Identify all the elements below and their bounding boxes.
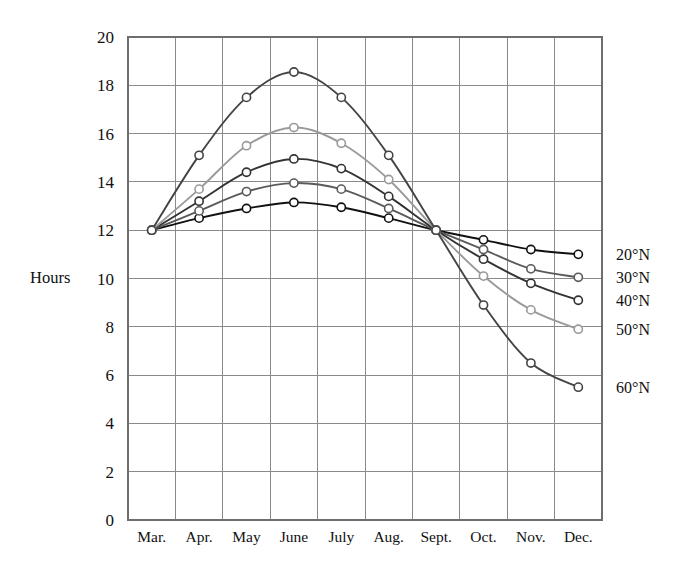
y-tick-label: 10 xyxy=(97,270,114,289)
data-point xyxy=(337,165,345,173)
data-point xyxy=(574,250,582,258)
data-point xyxy=(242,93,250,101)
data-point xyxy=(574,273,582,281)
y-tick-label: 14 xyxy=(97,173,115,192)
y-tick-label: 12 xyxy=(97,221,114,240)
y-tick-label: 20 xyxy=(97,28,114,47)
y-tick-label: 18 xyxy=(97,76,114,95)
y-axis-title: Hours xyxy=(30,268,70,287)
data-point xyxy=(242,204,250,212)
data-point xyxy=(432,226,440,234)
data-point xyxy=(290,123,298,131)
x-tick-label: Apr. xyxy=(186,528,213,545)
data-point xyxy=(527,265,535,273)
y-tick-label: 2 xyxy=(106,463,115,482)
data-point xyxy=(290,155,298,163)
y-axis-ticks: 02468101214161820 xyxy=(97,28,115,530)
data-point xyxy=(337,203,345,211)
data-point xyxy=(479,255,487,263)
data-point xyxy=(385,204,393,212)
data-point xyxy=(337,185,345,193)
data-point xyxy=(385,214,393,222)
data-point xyxy=(574,383,582,391)
x-tick-label: Sept. xyxy=(420,528,451,545)
x-tick-label: Dec. xyxy=(564,528,593,545)
data-point xyxy=(195,151,203,159)
x-tick-label: Oct. xyxy=(470,528,496,545)
y-tick-label: 4 xyxy=(106,414,115,433)
data-point xyxy=(527,359,535,367)
x-tick-label: Mar. xyxy=(137,528,166,545)
data-point xyxy=(527,279,535,287)
x-tick-label: Nov. xyxy=(516,528,546,545)
line-chart: 02468101214161820 Mar.Apr.MayJuneJulyAug… xyxy=(0,0,687,561)
data-point xyxy=(527,245,535,253)
data-point xyxy=(290,179,298,187)
data-point xyxy=(385,192,393,200)
data-point xyxy=(195,185,203,193)
y-tick-label: 0 xyxy=(106,511,115,530)
data-point xyxy=(479,272,487,280)
y-tick-label: 16 xyxy=(97,125,114,144)
data-point xyxy=(385,151,393,159)
data-point xyxy=(479,245,487,253)
legend-label-60N: 60°N xyxy=(616,379,650,396)
legend-label-20N: 20°N xyxy=(616,246,650,263)
x-tick-label: Aug. xyxy=(373,528,404,545)
legend-label-50N: 50°N xyxy=(616,321,650,338)
legend: 20°N30°N40°N50°N60°N xyxy=(616,246,650,396)
data-point xyxy=(574,296,582,304)
data-point xyxy=(574,325,582,333)
data-point xyxy=(385,175,393,183)
legend-label-30N: 30°N xyxy=(616,269,650,286)
data-point xyxy=(290,68,298,76)
data-point xyxy=(242,168,250,176)
x-tick-label: May xyxy=(232,528,261,545)
data-point xyxy=(242,187,250,195)
data-point xyxy=(479,301,487,309)
data-point xyxy=(479,236,487,244)
data-point xyxy=(195,207,203,215)
x-tick-label: June xyxy=(280,528,309,545)
data-point xyxy=(290,198,298,206)
data-point xyxy=(527,306,535,314)
legend-label-40N: 40°N xyxy=(616,292,650,309)
x-axis-ticks: Mar.Apr.MayJuneJulyAug.Sept.Oct.Nov.Dec. xyxy=(137,528,592,545)
chart-canvas: 02468101214161820 Mar.Apr.MayJuneJulyAug… xyxy=(0,0,687,561)
x-tick-label: July xyxy=(328,528,354,545)
data-point xyxy=(337,93,345,101)
data-point xyxy=(195,197,203,205)
data-point xyxy=(242,142,250,150)
data-point xyxy=(148,226,156,234)
y-tick-label: 8 xyxy=(106,318,115,337)
y-tick-label: 6 xyxy=(106,366,115,385)
data-point xyxy=(337,139,345,147)
